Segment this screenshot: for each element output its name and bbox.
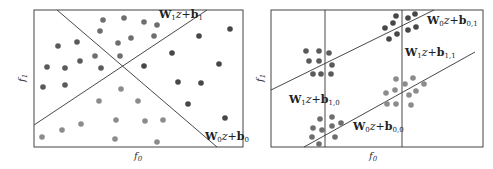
class-left-points [40,39,104,90]
class-right-points [141,26,233,121]
figure: W1z+b1 W0z+b0 f0 f1 [0,0,493,169]
label-w0z-b01: W0z+b0,1 [426,14,478,28]
cluster-lower-left [309,114,344,147]
left-plot-frame [34,10,243,147]
left-y-axis-label: f1 [16,74,29,83]
class-top-points [92,15,160,59]
right-panel: W0z+b0,1 W1z+b1,1 W1z+b1,0 W0z+b0,0 f0 f… [254,10,483,163]
left-panel: W1z+b1 W0z+b0 f0 f1 [16,8,249,163]
label-w1z-b1: W1z+b1 [158,8,203,22]
label-w1z-b10: W1z+b1,0 [288,93,340,107]
label-w0z-b00: W0z+b0,0 [352,120,404,134]
class-bottom-points [39,86,166,145]
right-y-axis-label: f1 [254,74,267,83]
label-w0z-b0: W0z+b0 [204,130,249,144]
right-x-axis-label: f0 [368,150,378,163]
label-w1z-b11: W1z+b1,1 [404,46,456,60]
cluster-upper-left [303,48,335,77]
left-x-axis-label: f0 [133,150,143,163]
cluster-lower-right [383,75,427,108]
boundary-line-w1 [34,10,207,125]
